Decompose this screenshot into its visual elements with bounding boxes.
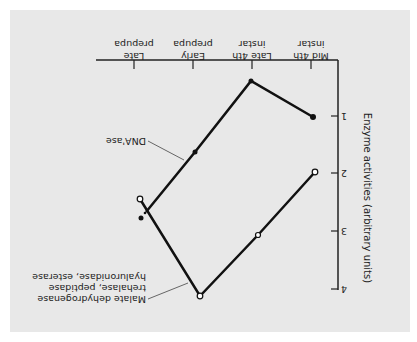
svg-text:hyaluronidase, esterase: hyaluronidase, esterase <box>32 272 146 283</box>
chart: 1 2 3 4 Enzyme activities (arbitrary uni… <box>0 0 417 342</box>
annotation-dnaase: DNA'ase <box>106 136 146 147</box>
annotation-malate: Malate dehydrogenase <box>37 294 146 305</box>
y-tick-4: 4 <box>341 284 347 295</box>
category-late-prepupa: Late <box>124 51 145 62</box>
series-dnaase-line <box>146 81 313 212</box>
y-tick-3: 3 <box>341 226 347 237</box>
series-malate-line <box>140 172 315 296</box>
category-mid-4th: Mid 4th <box>293 51 329 62</box>
y-axis-label: Enzyme activities (arbitrary units) <box>362 113 373 283</box>
svg-text:instar: instar <box>238 39 265 50</box>
svg-text:prepupa: prepupa <box>173 39 212 50</box>
category-late-4th: Late 4th <box>232 51 272 62</box>
category-early-prepupa: Early <box>181 51 205 62</box>
svg-text:prepupa: prepupa <box>114 39 153 50</box>
y-tick-1: 1 <box>341 111 347 122</box>
svg-text:instar: instar <box>297 39 324 50</box>
svg-text:trehalase, peptidase: trehalase, peptidase <box>49 283 146 294</box>
y-tick-2: 2 <box>341 168 347 179</box>
